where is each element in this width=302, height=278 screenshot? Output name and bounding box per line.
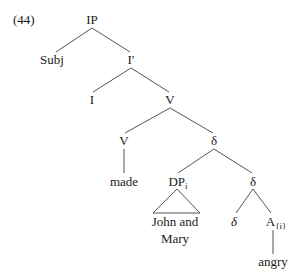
a-label: A xyxy=(266,214,275,229)
a-subscript: {i} xyxy=(275,221,286,231)
node-angry: angry xyxy=(258,255,288,269)
node-delta-mid: δ xyxy=(250,175,256,189)
node-i: I xyxy=(90,93,94,107)
node-dp: DPi xyxy=(168,175,187,189)
node-delta-upper: δ xyxy=(211,134,217,148)
node-subj: Subj xyxy=(40,53,64,67)
example-number: (44) xyxy=(13,12,35,28)
tree-branches xyxy=(0,0,302,278)
dp-subscript: i xyxy=(185,181,188,191)
node-delta-low: δ xyxy=(231,215,237,229)
node-john-and: John and xyxy=(152,215,199,229)
node-v-lower: V xyxy=(119,134,128,148)
node-ip: IP xyxy=(86,13,98,27)
node-v-upper: V xyxy=(165,93,174,107)
node-a: A{i} xyxy=(266,215,287,229)
node-made: made xyxy=(110,175,138,189)
node-ibar: I′ xyxy=(127,53,134,67)
dp-label: DP xyxy=(168,174,185,189)
node-mary: Mary xyxy=(161,232,189,246)
